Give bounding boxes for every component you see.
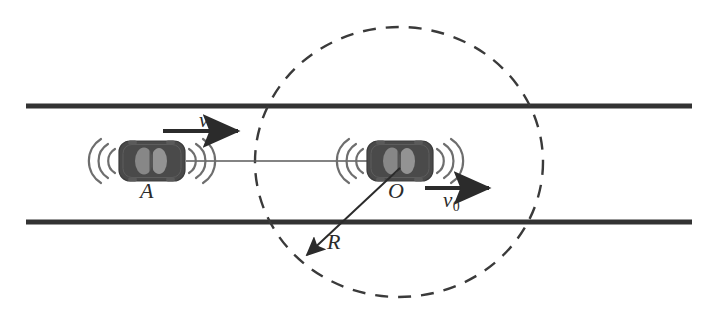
- radius-r-label: R: [327, 231, 340, 253]
- car-a-label: A: [140, 180, 153, 202]
- car-o-label: O: [388, 180, 404, 202]
- velocity-v0-subscript: 0: [453, 199, 460, 214]
- car-o-body-icon: [367, 141, 433, 182]
- velocity-v-label: v: [199, 110, 208, 131]
- radius-r-arrow: [307, 168, 400, 255]
- car-a: [89, 139, 215, 183]
- car-o-right-wave-icon: [437, 139, 463, 183]
- car-a-left-wave-icon: [89, 139, 115, 183]
- velocity-v0-symbol: v: [443, 188, 452, 212]
- car-a-body-icon: [119, 141, 185, 182]
- velocity-v0-label: v0: [443, 190, 460, 214]
- car-o: [337, 139, 463, 183]
- diagram-canvas: [0, 0, 714, 315]
- physics-diagram-figure: A O R v v0: [0, 0, 714, 315]
